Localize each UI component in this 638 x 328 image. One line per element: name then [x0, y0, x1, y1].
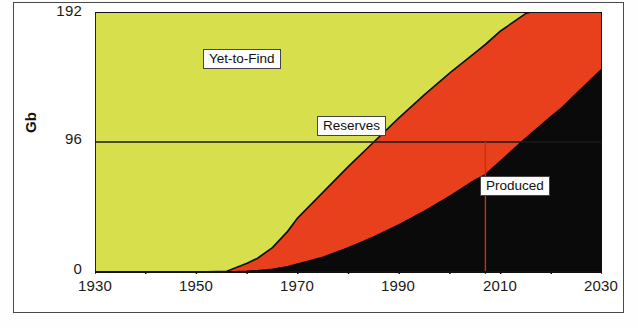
x-tick-label-1990: 1990 — [368, 277, 428, 294]
x-tick-label-1970: 1970 — [267, 277, 327, 294]
plot-area: Yet-to-Find Reserves Produced — [95, 12, 602, 272]
y-tick-label-0: 0 — [30, 260, 82, 277]
area-chart-svg — [95, 12, 602, 274]
x-tick-label-2030: 2030 — [571, 277, 631, 294]
y-tick-label-96: 96 — [30, 130, 82, 147]
x-tick-label-1950: 1950 — [166, 277, 226, 294]
yet-to-find-label: Yet-to-Find — [203, 49, 281, 69]
reserves-label: Reserves — [317, 116, 386, 136]
chart-figure: Gb 192 96 0 1930 1950 1970 1990 2010 203… — [0, 0, 638, 328]
x-tick-label-2010: 2010 — [470, 277, 530, 294]
x-tick-label-1930: 1930 — [65, 277, 125, 294]
y-tick-label-192: 192 — [30, 2, 82, 19]
produced-label: Produced — [480, 176, 550, 196]
